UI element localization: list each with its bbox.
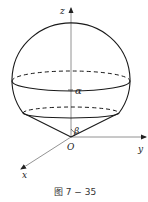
- origin-label: O: [67, 142, 75, 152]
- y-label: y: [137, 144, 144, 154]
- figure-caption: 图 7 − 35: [54, 187, 96, 197]
- beta-label: β: [73, 126, 79, 136]
- sphere-cone-diagram: z α β O y x 图 7 − 35: [0, 0, 148, 202]
- x-label: x: [22, 170, 27, 180]
- cone-left: [23, 113, 71, 137]
- x-axis: [21, 137, 71, 169]
- z-label: z: [59, 6, 65, 16]
- alpha-label: α: [75, 85, 82, 96]
